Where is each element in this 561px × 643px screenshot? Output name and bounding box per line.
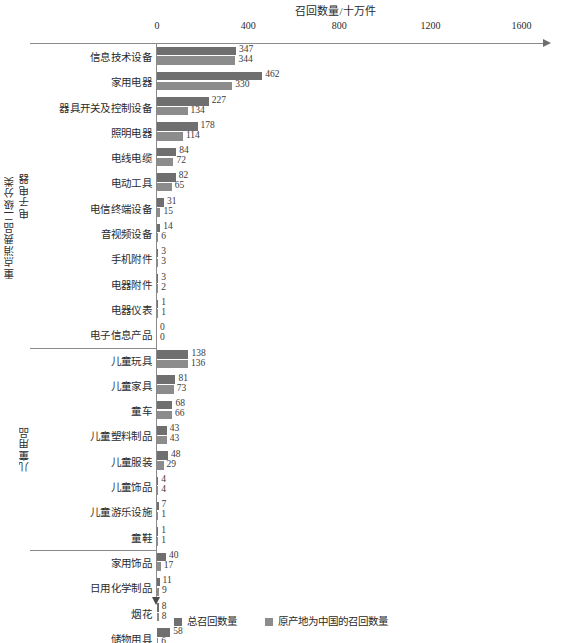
bar-value-china: 17 — [164, 560, 174, 570]
bar-china — [157, 107, 188, 116]
bar-value-total: 3 — [161, 272, 166, 282]
category-label: 电子信息产品 — [90, 327, 152, 342]
bar-pair: 462330 — [157, 69, 561, 94]
bar-china — [157, 562, 161, 571]
bar-value-total: 82 — [179, 170, 189, 180]
bar-value-total: 1 — [161, 525, 166, 535]
bar-pair: 347344 — [157, 44, 561, 69]
bar-pair: 33 — [157, 246, 561, 271]
legend-item[interactable]: 总召回数量 — [174, 613, 237, 628]
bar-row: 信息技术设备347344 — [0, 44, 561, 69]
bar-total — [157, 375, 175, 384]
bar-china — [157, 461, 164, 470]
bar-pair: 8173 — [157, 373, 561, 398]
legend-item[interactable]: 原产地为中国的召回数量 — [265, 613, 388, 628]
bar-value-total: 178 — [201, 120, 215, 130]
category-label: 儿童家具 — [111, 378, 152, 393]
x-tick-0: 0 — [155, 20, 160, 31]
bar-value-total: 11 — [163, 575, 172, 585]
bar-pair: 44 — [157, 474, 561, 499]
bar-pair: 71 — [157, 499, 561, 524]
bar-pair: 32 — [157, 272, 561, 297]
bar-value-china: 1 — [161, 509, 166, 519]
bar-china — [157, 309, 158, 318]
bar-value-china: 4 — [161, 484, 166, 494]
x-axis-title-text: 召回数量/十万件 — [295, 2, 377, 18]
bar-row: 儿童游乐设施71 — [0, 499, 561, 524]
bar-pair: 586 — [157, 626, 561, 643]
bar-value-total: 14 — [163, 221, 173, 231]
bar-total — [157, 300, 158, 309]
bar-row: 儿童家具8173 — [0, 373, 561, 398]
bar-total — [157, 426, 167, 435]
bar-china — [157, 436, 167, 445]
bar-row: 儿童饰品44 — [0, 474, 561, 499]
category-label: 手机附件 — [111, 251, 152, 266]
bar-pair: 11 — [157, 525, 561, 550]
bar-value-china: 65 — [175, 180, 185, 190]
bar-china — [157, 132, 183, 141]
bar-row: 儿童服装4829 — [0, 449, 561, 474]
bar-value-total: 81 — [178, 373, 188, 383]
category-label: 儿童塑料制品 — [90, 428, 152, 443]
category-label: 儿童玩具 — [111, 353, 152, 368]
bar-value-china: 72 — [176, 155, 186, 165]
bar-value-china: 134 — [191, 105, 205, 115]
bar-china — [157, 183, 172, 192]
category-label: 童车 — [131, 403, 152, 418]
bar-value-total: 68 — [175, 398, 185, 408]
bar-row: 童鞋11 — [0, 525, 561, 550]
bar-china — [157, 360, 188, 369]
bar-value-total: 40 — [169, 550, 179, 560]
bar-total — [157, 603, 159, 612]
bar-value-total: 347 — [239, 44, 253, 54]
bar-value-china: 2 — [161, 282, 166, 292]
category-label: 儿童服装 — [111, 454, 152, 469]
bar-row: 器具开关及控制设备227134 — [0, 95, 561, 120]
bar-row: 电动工具8265 — [0, 170, 561, 195]
bar-row: 电子信息产品00 — [0, 322, 561, 347]
bar-value-total: 31 — [167, 196, 177, 206]
bar-china — [157, 486, 158, 495]
bar-row: 手机附件33 — [0, 246, 561, 271]
bar-total — [157, 47, 236, 56]
bar-row: 家用饰品4017 — [0, 550, 561, 575]
category-label: 电器仪表 — [111, 302, 152, 317]
bar-row: 儿童塑料制品4343 — [0, 423, 561, 448]
category-label: 电信终端设备 — [90, 201, 152, 216]
bar-china — [157, 512, 158, 521]
bar-total — [157, 477, 158, 486]
bar-value-china: 43 — [170, 433, 180, 443]
category-label: 童鞋 — [131, 530, 152, 545]
bar-total — [157, 401, 172, 410]
bar-value-china: 6 — [161, 231, 166, 241]
bar-total — [157, 148, 176, 157]
bar-row: 电线电缆8472 — [0, 145, 561, 170]
category-label: 器具开关及控制设备 — [59, 100, 152, 115]
category-label: 电动工具 — [111, 175, 152, 190]
bar-pair: 8472 — [157, 145, 561, 170]
category-label: 家用电器 — [111, 74, 152, 89]
bar-pair: 4829 — [157, 449, 561, 474]
bar-row: 电器附件32 — [0, 272, 561, 297]
category-label: 儿童游乐设施 — [90, 504, 152, 519]
bar-value-china: 15 — [163, 206, 173, 216]
bar-value-china: 3 — [161, 256, 166, 266]
bar-pair: 4017 — [157, 550, 561, 575]
bar-china — [157, 537, 158, 546]
category-label: 家用饰品 — [111, 555, 152, 570]
bar-pair: 146 — [157, 221, 561, 246]
bar-row: 电器仪表11 — [0, 297, 561, 322]
category-label: 储物用具 — [111, 631, 152, 643]
bar-rows: 信息技术设备347344家用电器462330器具开关及控制设备227134照明电… — [0, 44, 561, 643]
legend-swatch-icon — [174, 618, 182, 626]
bar-total — [157, 350, 188, 359]
bar-row: 音视频设备146 — [0, 221, 561, 246]
bar-row: 照明电器178114 — [0, 120, 561, 145]
bar-china — [157, 588, 159, 597]
bar-row: 电信终端设备3115 — [0, 196, 561, 221]
bar-value-total: 227 — [212, 95, 226, 105]
bar-row: 储物用具586 — [0, 626, 561, 643]
bar-value-total: 8 — [162, 601, 167, 611]
bar-value-china: 73 — [177, 383, 187, 393]
